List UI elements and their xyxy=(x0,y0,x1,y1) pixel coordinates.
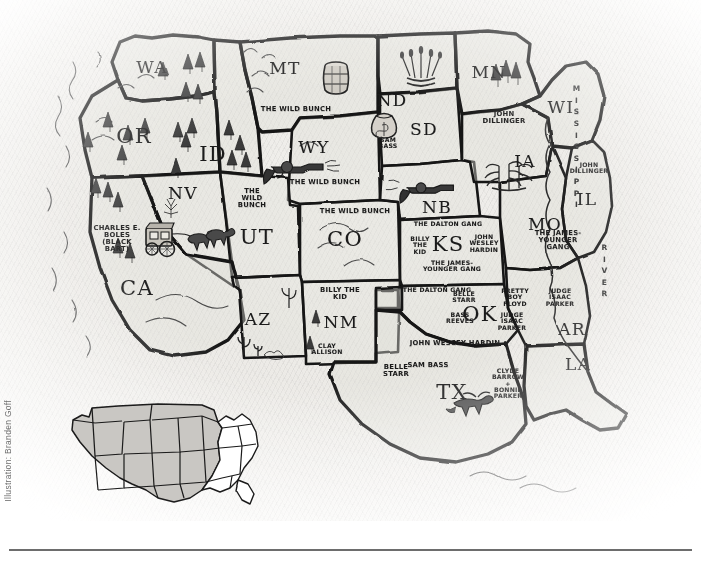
barrel-icon xyxy=(324,62,349,94)
united-states-locator-inset xyxy=(62,398,267,516)
state-arkansas xyxy=(506,258,590,346)
illustration-credit: Illustration: Branden Goff xyxy=(3,400,13,502)
inset-florida xyxy=(236,480,254,504)
bottom-divider-rule xyxy=(9,549,692,551)
state-north-dakota xyxy=(378,33,457,94)
state-louisiana xyxy=(524,344,626,430)
state-wyoming xyxy=(288,112,380,204)
state-oklahoma-panhandle xyxy=(376,287,402,310)
state-kansas xyxy=(400,216,504,286)
illustration-page: WAORIDMTWYNVUTCOAZNMNDSDNBKSOKTXMNIAWIIL… xyxy=(0,0,701,562)
state-colorado xyxy=(300,200,400,282)
state-iowa xyxy=(462,104,552,182)
state-illinois xyxy=(562,140,612,258)
state-arizona xyxy=(232,275,306,358)
gulf-wave-squiggles xyxy=(470,472,576,492)
money-sack-icon xyxy=(372,114,397,139)
